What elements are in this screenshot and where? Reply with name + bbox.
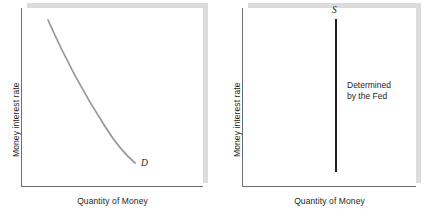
figure-money-market: D Money interest rate Quantity of Money … [0, 0, 431, 220]
y-axis-label: Money interest rate [11, 82, 21, 157]
x-axis-label: Quantity of Money [22, 196, 203, 206]
supply-curve-label: S [332, 5, 337, 15]
fed-annotation-line-1: Determined [347, 80, 391, 91]
demand-curve-label: D [141, 158, 148, 168]
supply-curve [335, 19, 337, 172]
x-axis-label: Quantity of Money [243, 196, 416, 206]
y-axis [242, 8, 243, 187]
x-axis [242, 186, 416, 187]
fed-annotation: Determined by the Fed [347, 80, 391, 101]
panel-money-supply: S Determined by the Fed Money interest r… [216, 0, 431, 220]
demand-curve [0, 0, 215, 220]
fed-annotation-line-2: by the Fed [347, 91, 391, 102]
y-axis-label: Money interest rate [232, 82, 242, 157]
panel-money-demand: D Money interest rate Quantity of Money [0, 0, 215, 220]
